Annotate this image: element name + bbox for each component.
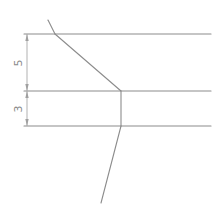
- dimension-arrow-top-icon: [25, 34, 28, 41]
- dimension-arrow-mid-down-icon: [25, 91, 28, 98]
- dimension-arrow-mid-up-icon: [25, 84, 28, 91]
- diagram-canvas: 5 3: [0, 0, 223, 208]
- diagonal-line: [55, 34, 121, 91]
- dimension-arrow-bottom-icon: [25, 119, 28, 126]
- dimension-label-5: 5: [12, 60, 25, 67]
- technical-drawing: 5 3: [0, 0, 223, 208]
- upper-kink-line: [48, 20, 55, 34]
- lower-slant-line: [101, 126, 121, 203]
- dimension-label-3: 3: [12, 106, 25, 113]
